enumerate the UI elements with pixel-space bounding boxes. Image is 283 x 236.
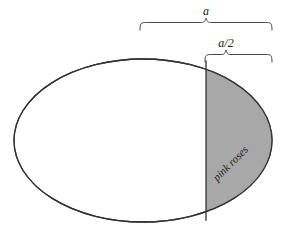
label-half-width: a/2 bbox=[218, 36, 233, 50]
figure-container: a a/2 pink roses bbox=[0, 0, 283, 236]
label-full-width: a bbox=[203, 4, 209, 18]
ellipse-diagram: a a/2 pink roses bbox=[0, 0, 283, 236]
